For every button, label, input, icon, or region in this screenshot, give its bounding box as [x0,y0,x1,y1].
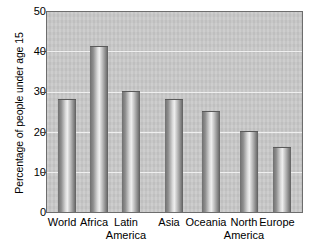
gridline-40 [47,51,302,52]
y-tick-label-50: 50 [6,6,46,17]
x-label-latin-america-line1: Latin [114,216,138,228]
x-label-europe-line1: Europe [259,216,294,228]
y-tick-label-30: 30 [6,86,46,97]
x-label-latin-america-line2: America [97,229,155,242]
bar-europe [273,147,291,212]
bar-world [58,99,76,212]
bar-africa [90,46,108,212]
bar-latin-america [122,91,140,212]
gridline-30 [47,92,302,93]
bar-north-america [240,131,258,212]
y-tick-label-20: 20 [6,127,46,138]
y-axis-title: Percentage of people under age 15 [13,8,25,218]
y-tick-label-10: 10 [6,167,46,178]
y-tick-label-40: 40 [6,46,46,57]
x-label-north-america-line2: America [215,229,273,242]
bar-asia [165,99,183,212]
x-label-europe: Europe [248,216,306,229]
bar-oceania [202,111,220,212]
plot-area [46,11,303,213]
bar-chart: Percentage of people under age 15 50 40 … [0,0,313,249]
